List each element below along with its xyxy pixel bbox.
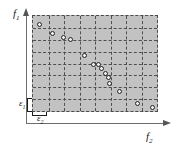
- y-axis-label: f1: [13, 8, 20, 22]
- x-axis-line: [26, 123, 166, 124]
- data-point: [150, 105, 155, 110]
- points-layer: [33, 16, 157, 111]
- data-point: [82, 53, 87, 58]
- arrow-right-icon: [163, 120, 171, 126]
- epsilon1-label-subscript: 1: [23, 104, 26, 110]
- data-point: [106, 75, 111, 80]
- data-point: [37, 22, 42, 27]
- epsilon1-label: ε1: [19, 99, 26, 110]
- y-axis-label-subscript: 1: [16, 14, 20, 22]
- data-point: [50, 31, 55, 36]
- data-point: [135, 101, 140, 106]
- arrow-up-icon: [23, 8, 29, 16]
- x-axis-label: f2: [146, 131, 153, 145]
- x-axis-label-subscript: 2: [149, 137, 153, 145]
- data-point: [61, 35, 66, 40]
- plot-area: [32, 15, 158, 112]
- data-point: [117, 89, 122, 94]
- epsilon2-label-subscript: 2: [41, 119, 44, 125]
- epsilon-grid-scatter-figure: f1 f2 ε1 ε2: [0, 0, 176, 147]
- data-point: [68, 37, 73, 42]
- data-point: [107, 81, 112, 86]
